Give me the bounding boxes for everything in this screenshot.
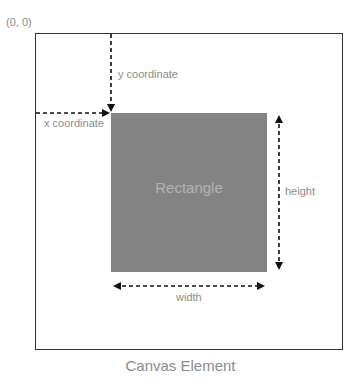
y-coordinate-label: y coordinate: [118, 68, 178, 80]
width-label: width: [176, 291, 202, 303]
height-label: height: [285, 185, 315, 197]
canvas-element-caption: Canvas Element: [0, 357, 361, 374]
x-coordinate-label: x coordinate: [44, 117, 104, 129]
